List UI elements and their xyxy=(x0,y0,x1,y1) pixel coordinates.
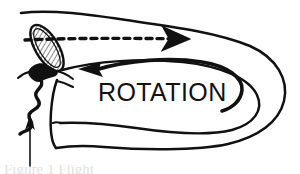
caption-text: Figure 1 Flight xyxy=(4,165,94,174)
vortex-outer-left-edge xyxy=(51,80,57,148)
blob-spur-right xyxy=(56,71,73,79)
caption-strip: Figure 1 Flight xyxy=(0,165,300,174)
rotation-text-label: ROTATION xyxy=(98,78,227,106)
vortex-throat-tick-upper xyxy=(57,81,73,87)
vortex-throat-tick-lower xyxy=(53,122,61,123)
vortex-rotation-diagram: ROTATION xyxy=(0,0,300,174)
figure-root: ROTATION Figure 1 Flight xyxy=(0,0,300,174)
blob-spur-left xyxy=(18,72,29,78)
